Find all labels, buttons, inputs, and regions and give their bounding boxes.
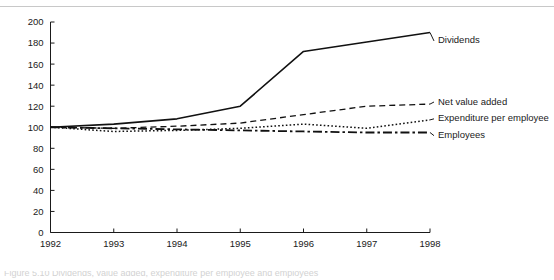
y-tick-label: 140 xyxy=(28,80,44,91)
x-tick-label: 1992 xyxy=(40,238,61,249)
y-tick-label: 0 xyxy=(38,227,43,238)
series-label-employees: Employees xyxy=(438,129,485,140)
series-line-dividends xyxy=(51,33,431,128)
figure-caption: Figure 5.10 Dividends, value added, expe… xyxy=(4,271,318,278)
y-axis: 020406080100120140160180200 xyxy=(28,16,55,238)
series-label-dividends: Dividends xyxy=(438,34,480,45)
x-tick-label: 1998 xyxy=(419,238,440,249)
leader-line-expenditure-per-employee xyxy=(430,119,434,120)
x-tick-label: 1997 xyxy=(356,238,377,249)
leader-line-net-value-added xyxy=(430,102,434,104)
y-tick-label: 100 xyxy=(28,122,44,133)
series-label-leader-lines xyxy=(430,33,434,136)
x-tick-labels: 1992199319941995199619971998 xyxy=(40,238,441,249)
series-labels: DividendsNet value addedExpenditure per … xyxy=(438,34,549,140)
x-tick-label: 1996 xyxy=(293,238,314,249)
y-tick-label: 20 xyxy=(33,206,44,217)
y-tick-label: 80 xyxy=(33,143,44,154)
line-chart-figure: 020406080100120140160180200 199219931994… xyxy=(0,0,554,280)
x-tick-label: 1995 xyxy=(230,238,251,249)
x-tick-label: 1994 xyxy=(166,238,187,249)
y-tick-label: 200 xyxy=(28,16,44,27)
y-tick-label: 40 xyxy=(33,185,44,196)
y-tick-label: 160 xyxy=(28,59,44,70)
series-line-expenditure-per-employee xyxy=(51,120,431,132)
data-series-lines xyxy=(51,33,431,133)
y-tick-labels: 020406080100120140160180200 xyxy=(28,16,44,238)
x-tick-label: 1993 xyxy=(103,238,124,249)
x-axis: 1992199319941995199619971998 xyxy=(40,229,441,249)
y-tick-label: 180 xyxy=(28,37,44,48)
series-label-net-value-added: Net value added xyxy=(438,96,507,107)
x-tick-marks xyxy=(51,229,431,233)
series-label-expenditure-per-employee: Expenditure per employee xyxy=(438,112,549,123)
figure-caption-strip: Figure 5.10 Dividends, value added, expe… xyxy=(0,271,554,280)
y-tick-label: 120 xyxy=(28,101,44,112)
chart-canvas: 020406080100120140160180200 199219931994… xyxy=(0,0,554,280)
leader-line-employees xyxy=(430,133,434,136)
y-tick-label: 60 xyxy=(33,164,44,175)
leader-line-dividends xyxy=(430,33,434,41)
